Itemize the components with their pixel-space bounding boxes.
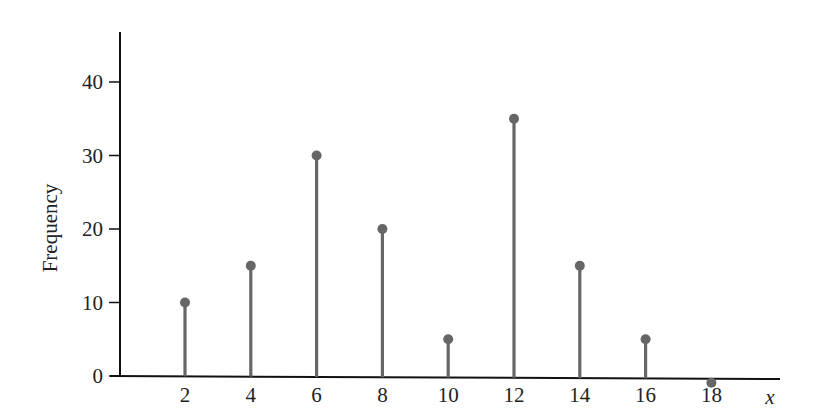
stem-point (312, 151, 322, 377)
stem-chart: 010203040 24681012141618 Frequency x (0, 0, 826, 417)
y-tick-label: 40 (82, 70, 103, 94)
y-tick-label: 10 (82, 291, 103, 315)
stem-point (509, 114, 519, 378)
x-axis: 24681012141618 (110, 376, 780, 407)
y-tick-label: 20 (82, 217, 103, 241)
x-tick-label: 2 (180, 383, 191, 407)
x-tick-label: 8 (377, 383, 388, 407)
stem-point (180, 298, 190, 377)
x-tick-label: 16 (635, 383, 656, 407)
stem-point (246, 261, 256, 377)
stem-point (377, 224, 387, 377)
x-tick-label: 10 (438, 383, 459, 407)
stem-point (575, 261, 585, 378)
stems (180, 114, 716, 388)
stem-point (706, 378, 716, 388)
y-tick-label: 0 (93, 364, 104, 388)
x-axis-label: x (764, 385, 775, 409)
stem-point (443, 334, 453, 377)
x-tick-label: 14 (569, 383, 591, 407)
x-tick-label: 6 (311, 383, 322, 407)
y-axis-label: Frequency (38, 183, 62, 272)
y-tick-label: 30 (82, 144, 103, 168)
x-tick-label: 12 (504, 383, 525, 407)
y-axis: 010203040 (82, 32, 120, 388)
x-tick-label: 4 (246, 383, 257, 407)
stem-point (641, 334, 651, 378)
